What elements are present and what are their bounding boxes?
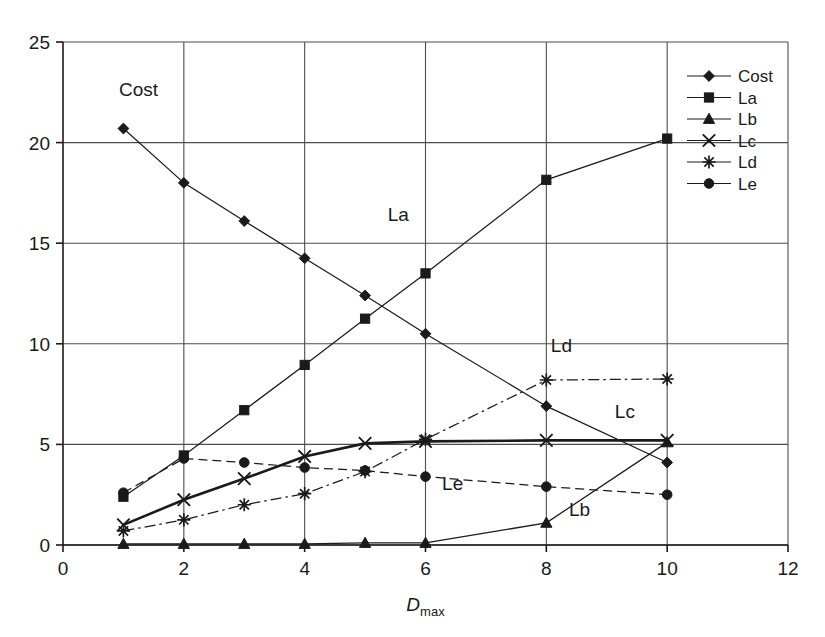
series-label-la: La xyxy=(388,204,410,225)
data-point-circle xyxy=(421,472,431,482)
data-point-square xyxy=(240,406,249,415)
data-point-circle xyxy=(119,488,129,498)
y-tick-label: 10 xyxy=(29,334,50,355)
data-point-asterisk xyxy=(702,155,715,168)
data-point-square xyxy=(542,175,551,184)
data-point-circle xyxy=(300,463,310,473)
x-tick-label: 6 xyxy=(420,558,431,579)
data-point-square xyxy=(663,134,672,143)
chart-figure: 0510152025024681012 CostLaLdLcLeLb CostL… xyxy=(0,0,825,637)
data-point-circle xyxy=(542,482,552,492)
y-tick-label: 5 xyxy=(39,434,50,455)
data-point-square xyxy=(421,269,430,278)
data-point-asterisk xyxy=(540,373,553,386)
data-point-circle xyxy=(360,466,370,476)
x-tick-label: 2 xyxy=(179,558,190,579)
x-tick-label: 4 xyxy=(299,558,310,579)
series-label-lb: Lb xyxy=(569,499,590,520)
data-point-circle xyxy=(239,458,249,468)
data-point-square xyxy=(704,93,713,102)
data-point-square xyxy=(360,314,369,323)
x-tick-label: 0 xyxy=(58,558,69,579)
legend-label-la: La xyxy=(738,89,757,108)
line-chart-canvas: 0510152025024681012 CostLaLdLcLeLb CostL… xyxy=(0,0,825,637)
data-point-asterisk xyxy=(238,498,251,511)
series-label-ld: Ld xyxy=(551,335,572,356)
y-tick-label: 20 xyxy=(29,133,50,154)
series-label-lc: Lc xyxy=(615,401,635,422)
y-tick-label: 25 xyxy=(29,32,50,53)
data-point-circle xyxy=(179,454,189,464)
data-point-asterisk xyxy=(661,372,674,385)
data-point-square xyxy=(300,360,309,369)
data-point-circle xyxy=(662,490,672,500)
series-label-le: Le xyxy=(442,473,463,494)
x-tick-label: 12 xyxy=(777,558,798,579)
series-label-cost: Cost xyxy=(119,79,159,100)
data-point-asterisk xyxy=(177,513,190,526)
data-point-asterisk xyxy=(298,487,311,500)
data-point-asterisk xyxy=(419,433,432,446)
data-point-asterisk xyxy=(117,524,130,537)
x-tick-label: 10 xyxy=(657,558,678,579)
y-tick-label: 15 xyxy=(29,233,50,254)
y-tick-label: 0 xyxy=(39,535,50,556)
legend-label-lc: Lc xyxy=(738,132,756,151)
x-tick-label: 8 xyxy=(541,558,552,579)
legend-label-ld: Ld xyxy=(738,153,757,172)
legend-label-lb: Lb xyxy=(738,110,757,129)
data-point-circle xyxy=(704,179,714,189)
legend-label-cost: Cost xyxy=(738,67,773,86)
legend-label-le: Le xyxy=(738,175,757,194)
